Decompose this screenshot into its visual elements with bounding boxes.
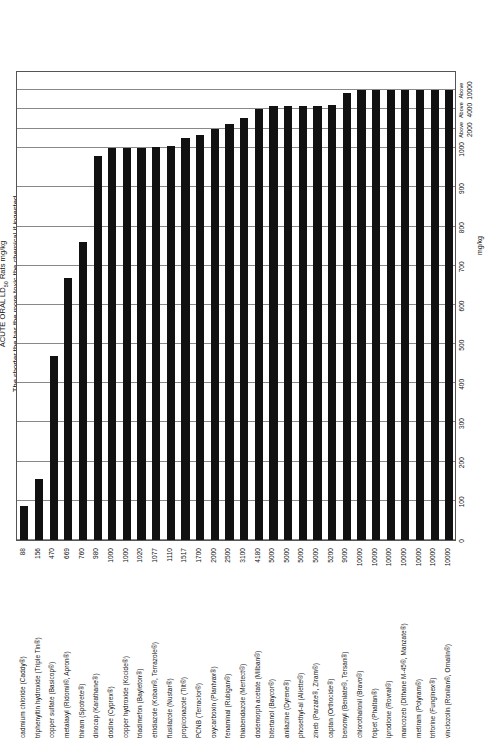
- value-label: 5200: [324, 548, 339, 584]
- tick-label: 400: [458, 379, 465, 390]
- category-label: thiabendazole (Mertect®): [236, 588, 251, 738]
- value-label: 1077: [148, 548, 163, 584]
- tick-label: 10000: [466, 81, 473, 99]
- bar: [50, 356, 58, 540]
- bar-slot: [310, 72, 325, 540]
- bar-slot: [149, 72, 164, 540]
- scanned-page: ACUTE ORAL LD50 Rats mg/kg The shorter t…: [0, 0, 490, 744]
- x-axis-tick: 100: [458, 496, 466, 507]
- bar-slot: [222, 72, 237, 540]
- chart-title: ACUTE ORAL LD50 Rats mg/kg: [0, 84, 11, 504]
- category-label: vinclozolin (Ronilan®, Ornalin®): [441, 588, 456, 738]
- category-label: triphenyltin hydroxide (Triple Tin®): [31, 588, 46, 738]
- value-label: 10000: [412, 548, 427, 584]
- tick-label: 500: [458, 340, 465, 351]
- bar-slot: [266, 72, 281, 540]
- value-label: 3100: [236, 548, 251, 584]
- tick-above-prefix: Above: [458, 102, 466, 118]
- bar: [328, 105, 336, 540]
- category-label: thiram (Spotrete®): [75, 588, 90, 738]
- bar-slot: [76, 72, 91, 540]
- bar-series: [17, 72, 455, 540]
- x-axis-tick: 200: [458, 457, 466, 468]
- category-label: propiconazole (Tilt®): [177, 588, 192, 738]
- category-label: anilazine (Dyrene®): [280, 588, 295, 738]
- bar-slot: [369, 72, 384, 540]
- bar: [211, 129, 219, 540]
- bar: [387, 90, 395, 540]
- bar-slot: [32, 72, 47, 540]
- tick-label: 1000: [458, 142, 465, 157]
- category-label: triforine (Funginex®): [426, 588, 441, 738]
- x-axis-tick: 400: [458, 379, 466, 390]
- bar-slot: [208, 72, 223, 540]
- bar: [35, 479, 43, 540]
- bar: [299, 106, 307, 540]
- category-label: cadmium chloride (Caddy®): [16, 588, 31, 738]
- bar-slot: [383, 72, 398, 540]
- chart-title-subscript: 50: [3, 281, 9, 287]
- bar-slot: [325, 72, 340, 540]
- value-label: 88: [16, 548, 31, 584]
- bar: [167, 146, 175, 540]
- value-label: 10000: [397, 548, 412, 584]
- category-label: flusilazole (Nustar®): [163, 588, 178, 738]
- bar: [357, 90, 365, 540]
- bar: [225, 124, 233, 540]
- bar-slot: [178, 72, 193, 540]
- value-label: 470: [45, 548, 60, 584]
- category-label: metiram (Polyram®): [412, 588, 427, 738]
- x-axis-title: mg/kg: [476, 236, 483, 255]
- bar-slot: [134, 72, 149, 540]
- bar: [196, 135, 204, 540]
- bar: [108, 148, 116, 540]
- value-label: 669: [60, 548, 75, 584]
- rotated-chart-canvas: ACUTE ORAL LD50 Rats mg/kg The shorter t…: [0, 0, 490, 744]
- x-axis-tick: 900: [458, 183, 466, 194]
- category-label: bitertanol (Baycor®): [265, 588, 280, 738]
- category-label: iprodione (Rovral®): [382, 588, 397, 738]
- value-label: 760: [75, 548, 90, 584]
- bar: [416, 90, 424, 540]
- bar-slot: [90, 72, 105, 540]
- x-axis-tick: 800: [458, 222, 466, 233]
- value-label: 2500: [221, 548, 236, 584]
- value-label: 10000: [368, 548, 383, 584]
- bar-slot: [427, 72, 442, 540]
- value-label: 1000: [104, 548, 119, 584]
- category-label: folpet (Phaltan®): [368, 588, 383, 738]
- x-axis-tick: 700: [458, 261, 466, 272]
- tick-above-prefix: Above: [458, 122, 466, 138]
- tick-label: 700: [458, 261, 465, 272]
- x-axis-tick: 600: [458, 300, 466, 311]
- x-axis-tick: Above2000: [458, 122, 473, 138]
- category-label: dodemorph acetate (Milban®): [251, 588, 266, 738]
- category-label: metalaxyl (Ridomil®, Apron®): [60, 588, 75, 738]
- category-label: PCNB (Terraclor®): [192, 588, 207, 738]
- category-label: copper sulfate (Basicop®): [45, 588, 60, 738]
- bar-slot: [252, 72, 267, 540]
- bar: [445, 90, 453, 540]
- category-label: captan (Orthocide®): [324, 588, 339, 738]
- value-label: 5000: [309, 548, 324, 584]
- bar-slot: [398, 72, 413, 540]
- x-axis-tick: Above10000: [458, 81, 473, 99]
- tick-label: 0: [458, 539, 465, 543]
- value-label: 5000: [280, 548, 295, 584]
- value-label: 9000: [338, 548, 353, 584]
- x-axis-tick: Above4000: [458, 102, 473, 118]
- category-label: chlorothalonil (Bravo®): [353, 588, 368, 738]
- x-axis-tick: 500: [458, 340, 466, 351]
- chart-title-prefix: ACUTE ORAL LD: [0, 287, 7, 347]
- category-label: mancozeb (Dithane M-45®, Manzate®): [397, 588, 412, 738]
- bar-slot: [46, 72, 61, 540]
- bar-slot: [61, 72, 76, 540]
- value-label: 10000: [426, 548, 441, 584]
- bar-slot: [295, 72, 310, 540]
- bar: [123, 148, 131, 540]
- bar: [284, 106, 292, 540]
- bar: [343, 93, 351, 540]
- value-label: 1000: [119, 548, 134, 584]
- bar: [20, 506, 28, 540]
- bar-slot: [237, 72, 252, 540]
